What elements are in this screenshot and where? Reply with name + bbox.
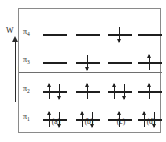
energy-axis-label: W [6, 26, 14, 35]
level-subscript-pi2: 2 [27, 88, 30, 94]
level-row-pi4: π4 [19, 22, 162, 48]
electron-arrow-down [119, 27, 120, 42]
column-caption-b: (b) [74, 117, 104, 126]
level-subscript-pi4: 4 [27, 31, 30, 37]
orbital-line [108, 91, 132, 93]
arrow-head-icon [47, 83, 51, 87]
arrow-head-icon [147, 54, 151, 58]
level-label-pi4: π4 [23, 27, 30, 37]
orbital-cell-pi3-c [106, 50, 136, 76]
level-label-pi2: π2 [23, 84, 30, 94]
column-captions: (a) (b) (c) (d) [19, 117, 162, 131]
orbital-cell-pi2-b [74, 79, 104, 105]
level-subscript-pi3: 3 [27, 59, 30, 65]
orbital-line [43, 62, 67, 64]
electron-arrow-up [87, 84, 88, 99]
arrow-head-icon [85, 83, 89, 87]
arrow-head-icon [85, 67, 89, 71]
arrow-head-icon [117, 111, 121, 115]
electron-arrow-down [87, 55, 88, 70]
electron-arrow-up [149, 55, 150, 70]
energy-axis-line [15, 40, 16, 102]
electron-arrow-up [149, 84, 150, 99]
orbital-cell-pi4-d [136, 22, 166, 48]
column-caption-c: (c) [106, 117, 136, 126]
arrow-head-icon [57, 96, 61, 100]
orbital-cell-pi2-a [41, 79, 71, 105]
column-caption-a: (a) [41, 117, 71, 126]
orbital-cell-pi3-d [136, 50, 166, 76]
orbital-line [43, 91, 67, 93]
electron-arrow-down [124, 84, 125, 99]
electron-arrow-up [49, 84, 50, 99]
arrow-head-icon [80, 111, 84, 115]
orbital-cell-pi4-b [74, 22, 104, 48]
orbital-cell-pi2-c [106, 79, 136, 105]
arrow-head-icon [112, 83, 116, 87]
orbital-line [138, 34, 162, 36]
mo-energy-level-figure: W 0 π4 [0, 0, 166, 142]
diagram-frame: π4 π3 [18, 8, 161, 133]
orbital-cell-pi3-a [41, 50, 71, 76]
level-row-pi2: π2 [19, 79, 162, 105]
orbital-cell-pi4-a [41, 22, 71, 48]
arrow-head-icon [47, 111, 51, 115]
orbital-cell-pi3-b [74, 50, 104, 76]
orbital-line [43, 34, 67, 36]
electron-arrow-up [114, 84, 115, 99]
orbital-cell-pi2-d [136, 79, 166, 105]
column-caption-d: (d) [136, 117, 166, 126]
arrow-head-icon [147, 83, 151, 87]
orbital-line [108, 62, 132, 64]
electron-arrow-down [59, 84, 60, 99]
arrow-head-icon [122, 96, 126, 100]
arrow-head-icon [117, 39, 121, 43]
level-row-pi3: π3 [19, 50, 162, 76]
level-label-pi3: π3 [23, 55, 30, 65]
orbital-cell-pi4-c [106, 22, 136, 48]
orbital-line [76, 34, 100, 36]
arrow-head-icon [142, 111, 146, 115]
